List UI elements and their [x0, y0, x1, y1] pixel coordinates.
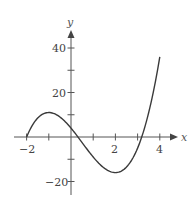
function-curve — [27, 57, 160, 173]
x-tick-label-neg2: −2 — [19, 143, 35, 156]
x-tick-label-4: 4 — [156, 143, 163, 156]
y-tick-label-neg20: −20 — [45, 176, 68, 189]
x-axis-arrow-icon — [170, 134, 178, 141]
cubic-function-plot: x y −2 2 4 40 20 −20 — [0, 0, 194, 210]
x-axis-label: x — [181, 131, 188, 144]
y-axis-label: y — [66, 16, 74, 29]
y-tick-label-20: 20 — [52, 87, 66, 100]
y-tick-label-40: 40 — [52, 42, 66, 55]
x-tick-label-2: 2 — [111, 143, 118, 156]
y-axis-arrow-icon — [68, 30, 75, 38]
